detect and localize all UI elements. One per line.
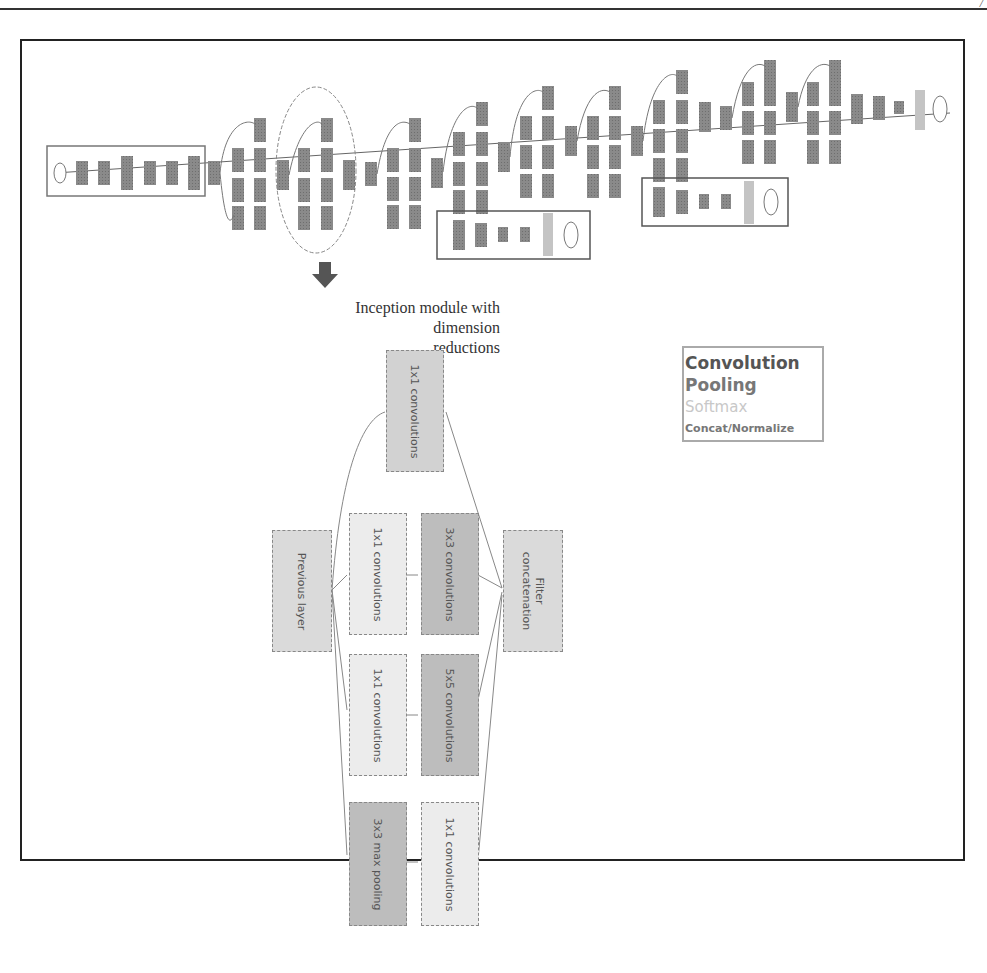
legend-pooling: Pooling [684, 374, 822, 396]
conv-3x3-block: 3x3 convolutions [421, 513, 479, 635]
max-pool-3x3-block: 3x3 max pooling [349, 802, 407, 926]
pool-proj-label: 1x1 convolutions [444, 817, 457, 911]
googlenet-overview [0, 0, 987, 340]
conv-5x5-block: 5x5 convolutions [421, 654, 479, 776]
previous-layer-label: Previous layer [296, 552, 309, 630]
filter-concat-line1: Filter [533, 577, 546, 604]
reduce-5x5-block: 1x1 convolutions [349, 654, 407, 776]
caption-line-1: Inception module with dimension [290, 298, 500, 338]
previous-layer-block: Previous layer [272, 530, 332, 652]
max-pool-3x3-label: 3x3 max pooling [372, 818, 385, 910]
legend: Convolution Pooling Softmax Concat/Norma… [682, 346, 824, 442]
reduce-5x5-label: 1x1 convolutions [372, 668, 385, 762]
top-1x1-conv-label: 1x1 convolutions [409, 364, 422, 458]
conv-3x3-label: 3x3 convolutions [444, 527, 457, 621]
module-caption: Inception module with dimension reductio… [290, 298, 500, 358]
legend-softmax: Softmax [684, 396, 822, 418]
legend-convolution: Convolution [684, 352, 822, 374]
reduce-3x3-block: 1x1 convolutions [349, 513, 407, 635]
filter-concat-block: Filterconcatenation [503, 530, 563, 652]
filter-concat-line2: concatenation [520, 552, 533, 630]
reduce-3x3-label: 1x1 convolutions [372, 527, 385, 621]
filter-concat-label: Filterconcatenation [520, 552, 546, 630]
legend-concat-normalize: Concat/Normalize [684, 418, 822, 440]
conv-5x5-label: 5x5 convolutions [444, 668, 457, 762]
pool-proj-block: 1x1 convolutions [421, 802, 479, 926]
top-1x1-conv-block: 1x1 convolutions [386, 350, 444, 472]
